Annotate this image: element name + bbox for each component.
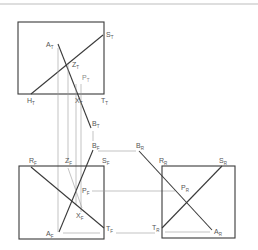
line-RT-front <box>31 167 104 228</box>
projection-diagram: AT ST ZT PT HT XT TT BT BF RF ZF SF PF X… <box>0 0 258 250</box>
top-view <box>18 22 104 128</box>
line-AB-top <box>58 44 91 128</box>
label-S-front: SF <box>102 157 110 166</box>
label-S-right: SR <box>219 157 228 166</box>
label-P-right: PR <box>181 184 190 193</box>
label-A-top: AT <box>46 41 54 50</box>
label-R-front: RF <box>29 157 37 166</box>
right-view-frame <box>162 166 235 238</box>
top-view-frame <box>18 22 104 94</box>
label-Z-top: ZT <box>72 61 79 70</box>
front-view-frame <box>19 166 104 239</box>
label-T-front: TF <box>106 225 113 234</box>
label-Z-front: ZF <box>65 157 72 166</box>
label-A-front: AF <box>46 230 54 239</box>
line-BA-right <box>139 151 212 230</box>
label-X-front: XF <box>76 212 84 221</box>
label-H-top: HT <box>27 97 35 106</box>
label-B-front: BF <box>92 142 100 151</box>
label-P-top: PT <box>82 74 90 83</box>
label-T-top: TT <box>101 97 108 106</box>
line-TS-right <box>162 166 222 228</box>
label-A-right: AR <box>214 228 223 237</box>
label-S-top: ST <box>106 31 114 40</box>
label-B-top: BT <box>92 120 100 129</box>
label-B-right: BR <box>136 142 145 151</box>
label-R-right: RR <box>159 157 168 166</box>
line-ZX-front <box>68 168 82 208</box>
label-T-right: TR <box>152 224 160 233</box>
label-P-front: PF <box>82 187 90 196</box>
line-HS-top <box>31 35 103 94</box>
